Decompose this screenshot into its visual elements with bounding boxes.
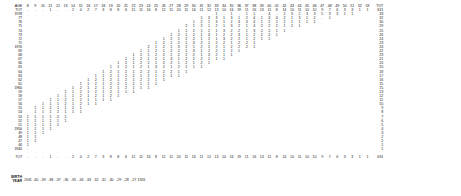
birth-year-35: -35 xyxy=(70,176,78,183)
birth-year-28: -28 xyxy=(122,176,130,183)
birth-year-30: -30 xyxy=(107,176,115,183)
bottom-column-total-51: 3 xyxy=(349,155,357,159)
bottom-column-total-21: 6 xyxy=(122,155,130,159)
bottom-column-total-40: 11 xyxy=(266,155,274,159)
bottom-column-total-44: 11 xyxy=(296,155,304,159)
bottom-column-total-23: 11 xyxy=(137,155,145,159)
bottom-column-total-18: 3 xyxy=(99,155,107,159)
bottom-column-total-47: 9 xyxy=(318,155,326,159)
bottom-column-total-33: 13 xyxy=(213,155,221,159)
bottom-grand-total: 631 xyxy=(371,155,385,159)
bottom-column-total-28: 20 xyxy=(175,155,183,159)
birth-year-footer: BIRTHYEAR1941-40-39-38-37-36-35-34-33-32… xyxy=(0,176,145,183)
bottom-column-total-50: 3 xyxy=(341,155,349,159)
bottom-column-total-16: 2 xyxy=(84,155,92,159)
birth-year-row: BIRTHYEAR1941-40-39-38-37-36-35-34-33-32… xyxy=(0,176,145,183)
birth-year-36: -36 xyxy=(62,176,70,183)
bottom-column-total-38: 16 xyxy=(250,155,258,159)
birth-year-27: -27 xyxy=(130,176,138,183)
bottom-column-total-17: 7 xyxy=(92,155,100,159)
bottom-column-total-26: 12 xyxy=(160,155,168,159)
bottom-column-total-41: 8 xyxy=(273,155,281,159)
birth-year-label-line2: YEAR xyxy=(0,180,22,184)
bottom-column-total-49: 6 xyxy=(333,155,341,159)
birth-year-40: -40 xyxy=(32,176,40,183)
bottom-totals-row: TOT---1--2427388611111681211201116111213… xyxy=(0,155,385,159)
bottom-column-total-46: 10 xyxy=(311,155,319,159)
cohort-table-sheet: AGE8910111213141516171819202122232425262… xyxy=(0,0,461,196)
bottom-column-total-27: 11 xyxy=(167,155,175,159)
bottom-column-total-15: 4 xyxy=(77,155,85,159)
bottom-column-total-35: 16 xyxy=(228,155,236,159)
bottom-column-total-10: - xyxy=(39,155,47,159)
birth-year-34: -34 xyxy=(77,176,85,183)
bottom-column-total-25: 8 xyxy=(152,155,160,159)
birth-year-label: BIRTHYEAR xyxy=(0,176,24,183)
birth-year-1926: 1926 xyxy=(137,176,145,183)
bottom-column-total-13: - xyxy=(62,155,70,159)
birth-year-1941: 1941 xyxy=(24,176,32,183)
bottom-column-total-32: 12 xyxy=(205,155,213,159)
birth-year-39: -39 xyxy=(39,176,47,183)
bottom-column-total-9: - xyxy=(32,155,40,159)
bottom-column-total-19: 8 xyxy=(107,155,115,159)
bottom-column-total-45: 10 xyxy=(303,155,311,159)
bottom-column-total-43: 10 xyxy=(288,155,296,159)
birth-year-32: -32 xyxy=(92,176,100,183)
bottom-column-total-36: 19 xyxy=(235,155,243,159)
birth-year-37: -37 xyxy=(54,176,62,183)
bottom-column-total-34: 10 xyxy=(220,155,228,159)
bottom-column-total-39: 13 xyxy=(258,155,266,159)
bottom-column-total-11: 1 xyxy=(47,155,55,159)
bottom-column-total-8: - xyxy=(24,155,32,159)
birth-year-38: -38 xyxy=(47,176,55,183)
birth-year-29: -29 xyxy=(115,176,123,183)
birth-year-33: -33 xyxy=(85,176,93,183)
bottom-column-total-12: - xyxy=(54,155,62,159)
main-data-table: AGE8910111213141516171819202122232425262… xyxy=(0,4,385,160)
bottom-column-total-37: 11 xyxy=(243,155,251,159)
birth-year-31: -31 xyxy=(100,176,108,183)
bottom-column-total-30: 16 xyxy=(190,155,198,159)
bottom-column-total-48: 7 xyxy=(326,155,334,159)
bottom-column-total-24: 16 xyxy=(145,155,153,159)
bottom-column-total-22: 11 xyxy=(130,155,138,159)
bottom-column-total-42: 14 xyxy=(281,155,289,159)
bottom-totals-label: TOT xyxy=(0,155,24,159)
bottom-column-total-14: 2 xyxy=(69,155,77,159)
bottom-column-total-52: 1 xyxy=(356,155,364,159)
bottom-column-total-53: 1 xyxy=(364,155,372,159)
bottom-column-total-29: 11 xyxy=(182,155,190,159)
bottom-column-total-31: 11 xyxy=(198,155,206,159)
bottom-column-total-20: 8 xyxy=(115,155,123,159)
